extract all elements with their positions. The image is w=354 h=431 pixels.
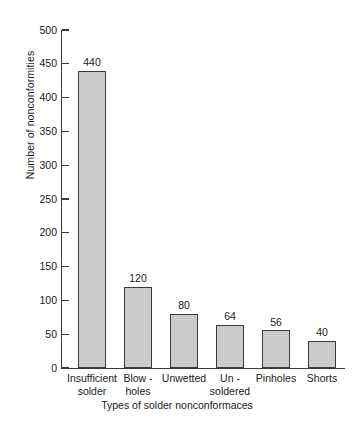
bar-value-label: 64 [224,311,236,322]
bar-value-label: 56 [270,317,282,328]
category-label-line-2: soldered [190,385,270,398]
y-axis-tick-label: 450 [17,58,57,69]
bar[interactable] [262,330,290,368]
bar-chart: Number of nonconformities 05010015020025… [0,0,354,431]
y-axis-tick-label: 100 [17,295,57,306]
bar-value-label: 440 [83,57,101,68]
bar[interactable] [124,287,152,368]
bar-group: 40 [308,30,336,368]
x-axis-title: Types of solder nonconformaces [0,399,354,411]
bar-group: 440 [78,30,106,368]
bar[interactable] [78,71,106,368]
y-axis-tick-label: 300 [17,160,57,171]
y-axis-tick-label: 400 [17,92,57,103]
bar-group: 120 [124,30,152,368]
y-axis-tick-label: 50 [17,329,57,340]
plot-area: 44012080645640 [62,30,345,368]
x-axis-line [61,368,345,369]
category-label-line-2: holes [98,385,178,398]
y-axis-tick-label: 0 [17,363,57,374]
bar-group: 64 [216,30,244,368]
bar-value-label: 80 [178,300,190,311]
bar[interactable] [308,341,336,368]
category-label-line-1: Shorts [307,372,337,384]
y-axis-tick-label: 200 [17,227,57,238]
x-axis-category-label: Shorts [282,372,354,385]
y-axis-tick-label: 250 [17,194,57,205]
bar-value-label: 120 [129,273,147,284]
bar-group: 80 [170,30,198,368]
y-axis-title: Number of nonconformities [24,15,36,215]
y-axis-tick-label: 150 [17,261,57,272]
bar-value-label: 40 [316,327,328,338]
bar[interactable] [170,314,198,368]
y-axis-tick-label: 350 [17,126,57,137]
bar[interactable] [216,325,244,368]
bar-group: 56 [262,30,290,368]
y-axis-tick-label: 500 [17,25,57,36]
